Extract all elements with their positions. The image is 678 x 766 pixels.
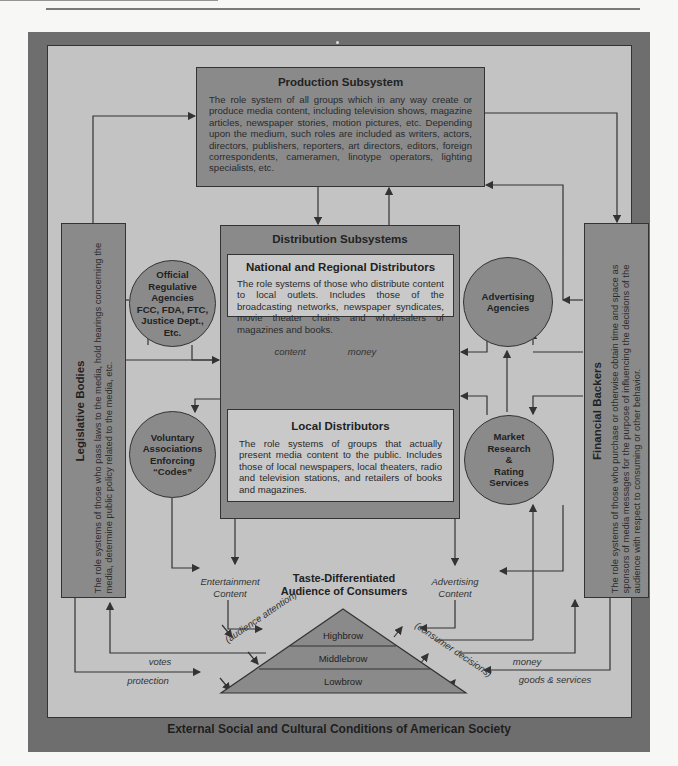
advertising-agencies-circle: Advertising Agencies [463, 257, 553, 347]
local-body: The role systems of groups that actually… [239, 438, 442, 495]
external-conditions-title: External Social and Cultural Conditions … [28, 722, 650, 736]
financial-body: The role systems of those who purchase o… [609, 228, 643, 593]
circle-line: Research [487, 443, 530, 455]
tier-middlebrow: Middlebrow [283, 653, 403, 664]
circle-line: Etc. [137, 327, 208, 339]
circle-line: Voluntary [143, 432, 203, 444]
circle-line: Enforcing [143, 455, 203, 467]
circle-line: Regulative [137, 281, 208, 293]
advertising-content-label: Advertising Content [420, 576, 490, 600]
entertainment-content-label: Entertainment Content [190, 576, 270, 600]
content-flow-label: content [258, 346, 322, 358]
circle-line: Associations [143, 443, 203, 455]
circle-line: FCC, FDA, FTC, [137, 304, 208, 316]
production-title: Production Subsystem [209, 76, 472, 88]
circle-line: Official [137, 269, 208, 281]
circle-line: Agencies [482, 302, 535, 314]
audience-title-line: Taste-Differentiated [274, 572, 414, 585]
local-distributors-box: Local Distributors The role systems of g… [227, 409, 454, 502]
circle-line: Market [487, 431, 530, 443]
financial-title: Financial Backers [591, 228, 603, 593]
tier-highbrow: Highbrow [283, 630, 403, 641]
legislative-bodies-box: Legislative Bodies The role systems of t… [61, 223, 126, 598]
circle-line: Justice Dept., [137, 315, 208, 327]
label-line: Content [190, 588, 270, 600]
tier-lowbrow: Lowbrow [283, 676, 403, 687]
circle-line: Rating [487, 466, 530, 478]
production-subsystem-box: Production Subsystem The role system of … [196, 67, 485, 187]
money-label: money [497, 656, 557, 668]
national-body: The role systems of those who distribute… [237, 278, 444, 335]
production-body: The role system of all groups which in a… [209, 94, 472, 174]
circle-line: “Codes” [143, 466, 203, 478]
protection-label: protection [108, 675, 188, 687]
money-flow-label: money [330, 346, 394, 358]
circle-line: Services [487, 477, 530, 489]
market-research-circle: Market Research & Rating Services [464, 415, 554, 505]
distribution-title: Distribution Subsystems [220, 233, 460, 245]
circle-line: Advertising [482, 291, 535, 303]
national-distributors-box: National and Regional Distributors The r… [227, 254, 454, 317]
regulative-agencies-circle: Official Regulative Agencies FCC, FDA, F… [129, 260, 216, 347]
votes-label: votes [130, 656, 190, 668]
circle-line: Agencies [137, 292, 208, 304]
circle-line: & [487, 454, 530, 466]
label-line: Entertainment [190, 576, 270, 588]
legislative-title: Legislative Bodies [73, 228, 85, 593]
national-title: National and Regional Distributors [237, 261, 444, 273]
legislative-body: The role systems of those who pass laws … [91, 228, 113, 593]
label-line: Advertising [420, 576, 490, 588]
financial-backers-box: Financial Backers The role systems of th… [584, 223, 649, 598]
voluntary-associations-circle: Voluntary Associations Enforcing “Codes” [129, 411, 216, 498]
local-title: Local Distributors [239, 420, 442, 432]
label-line: Content [420, 588, 490, 600]
goods-services-label: goods & services [505, 674, 605, 686]
